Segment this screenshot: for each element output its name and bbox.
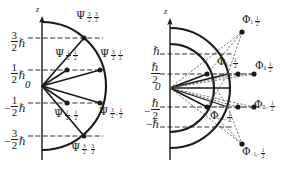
right-vector-inner-down [170, 88, 207, 107]
left-vector-psi-32-m12 [42, 86, 100, 103]
right-vector-outer-down [170, 88, 228, 107]
label-phi-m1-m12: Φ−1,−12 [242, 146, 266, 160]
right-z-axis-label: z [164, 8, 167, 16]
right-node-inner-down [205, 105, 210, 110]
label-phi-1-m12: Φ1,−12 [217, 56, 238, 70]
left-tick-3h2: 32ℏ [10, 30, 26, 53]
left-point-psi-12-m12 [65, 101, 70, 106]
left-point-psi-32-12 [98, 68, 103, 73]
label-phi-1-12: Φ1 12 [242, 14, 260, 28]
right-tick-mh: −ℏ [146, 119, 159, 130]
right-ray-phi-1-m12 [170, 74, 238, 88]
right-point-phi-m1-12 [235, 104, 240, 109]
left-tick-1h2: 12ℏ [10, 62, 26, 85]
right-ray-phi-m1-12 [170, 88, 238, 107]
right-tick-0: 0 [155, 81, 161, 92]
panel-left-psi: z 32ℏ 12ℏ 0 −12ℏ −32ℏ Ψ 32 32 Ψ 12 12 Ψ [0, 0, 142, 172]
left-vector-psi-32-12 [42, 70, 100, 86]
right-node-inner-up [205, 72, 210, 77]
left-vector-psi-32-32 [42, 38, 84, 86]
right-tick-h: ℏ [153, 46, 160, 57]
label-psi-32-m12: Ψ 32−12 [99, 106, 124, 120]
panel-right-phi: z ℏ ℏ2 0 −ℏ2 −ℏ Φ1 12 Φ1,−12 Φ0 12 Φ0,−1… [142, 0, 284, 172]
figure-root: z 32ℏ 12ℏ 0 −12ℏ −32ℏ Ψ 32 32 Ψ 12 12 Ψ [0, 0, 284, 172]
left-tick-m1h2: −12ℏ [4, 95, 26, 118]
label-psi-32-m32: Ψ 32−32 [71, 142, 96, 156]
left-point-psi-32-m32 [82, 134, 87, 139]
label-phi-0-12: Φ0 12 [255, 60, 273, 74]
left-z-axis-label: z [36, 6, 39, 14]
right-point-phi-1-m12 [235, 71, 240, 76]
label-phi-0-m12: Φ0,−12 [254, 99, 275, 113]
left-tick-m3h2: −32ℏ [4, 128, 26, 151]
left-tick-0: 0 [25, 79, 31, 90]
label-phi-m1-12: Φ−1, 12 [210, 110, 232, 124]
label-psi-32-12: Ψ 32 12 [100, 48, 123, 62]
label-psi-12-12: Ψ 12 12 [55, 48, 78, 62]
label-psi-32-32: Ψ 32 32 [76, 10, 99, 24]
left-point-psi-12-12 [65, 68, 70, 73]
right-point-phi-1-12 [239, 29, 244, 34]
left-point-psi-32-32 [82, 36, 87, 41]
left-arc-j32 [42, 22, 106, 150]
label-psi-12-m12: Ψ 12−12 [54, 108, 79, 122]
